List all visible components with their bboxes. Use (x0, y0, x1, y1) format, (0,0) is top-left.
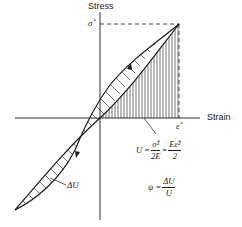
energy-frac-2: Eε̂² 2 (168, 140, 181, 160)
energy-frac-1: σ̂² 2E (151, 140, 160, 160)
strain-axis-label: Strain (207, 113, 231, 122)
energy-frac-2-num: Eε̂² (168, 140, 181, 151)
loss-factor-frac: ΔU U (162, 177, 175, 197)
loss-factor-lhs: ψ = (148, 183, 161, 192)
peak-stress-label: σ̂ (88, 19, 92, 28)
loss-factor-num: ΔU (162, 177, 175, 188)
arrow-down-icon (75, 151, 80, 158)
loss-factor-equation: ψ = ΔU U (148, 177, 176, 197)
stored-energy-hatch (103, 20, 178, 120)
loss-area-label: ΔU (67, 181, 79, 190)
energy-frac-1-num: σ̂² (151, 140, 160, 151)
energy-leader (144, 118, 156, 134)
energy-frac-2-den: 2 (173, 151, 177, 161)
hysteresis-diagram (0, 0, 242, 227)
energy-eq-equals: = (161, 146, 167, 155)
energy-eq-lhs: U = (136, 146, 150, 155)
energy-equation: U = σ̂² 2E = Eε̂² 2 (136, 140, 182, 160)
energy-frac-1-den: 2E (151, 151, 160, 161)
peak-strain-label: ε̂ (176, 122, 180, 131)
loss-factor-den: U (166, 188, 172, 198)
stress-axis-label: Stress (88, 2, 114, 11)
